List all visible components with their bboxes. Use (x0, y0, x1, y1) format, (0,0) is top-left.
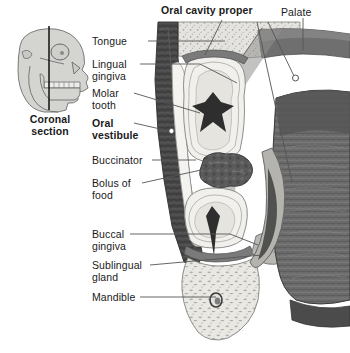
label-sublingual-gland: Sublingual gland (92, 260, 142, 283)
label-tongue: Tongue (92, 36, 127, 48)
leader-marker-palate-hook (293, 75, 299, 81)
label-oral-vestibule: Oral vestibule (92, 118, 138, 141)
anatomy-illustration (0, 0, 350, 353)
label-buccal-gingiva: Buccal gingiva (92, 229, 126, 252)
label-mandible: Mandible (92, 292, 135, 304)
leader-marker-oral-vestibule (169, 128, 174, 133)
label-lingual-gingiva: Lingual gingiva (92, 59, 127, 82)
figure-canvas: Oral cavity proper Palate Tongue Lingual… (0, 0, 350, 353)
label-buccinator: Buccinator (92, 155, 143, 167)
label-coronal-section: Coronal section (14, 114, 86, 137)
label-oral-cavity-proper: Oral cavity proper (161, 5, 253, 17)
label-palate: Palate (281, 7, 311, 19)
label-bolus-of-food: Bolus of food (92, 178, 131, 201)
label-molar-tooth: Molar tooth (92, 88, 119, 111)
